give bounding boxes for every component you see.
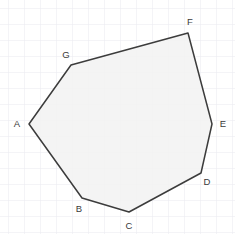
polygon-canvas: ABCDEFG (0, 0, 235, 234)
vertex-label-b: B (76, 203, 82, 214)
vertex-label-g: G (62, 49, 69, 60)
vertex-label-a: A (14, 118, 21, 129)
vertex-label-c: C (126, 220, 133, 231)
geometry-figure: ABCDEFG (0, 0, 235, 234)
vertex-label-e: E (220, 118, 226, 129)
vertex-label-d: D (204, 176, 211, 187)
vertex-label-f: F (187, 16, 193, 27)
